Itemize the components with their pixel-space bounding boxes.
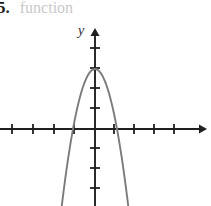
math-figure: 5. function	[0, 0, 211, 206]
y-axis-arrowhead	[91, 28, 100, 36]
x-axis-arrowhead	[199, 125, 207, 134]
y-axis-label: y	[78, 23, 84, 39]
coordinate-plane	[0, 0, 211, 206]
